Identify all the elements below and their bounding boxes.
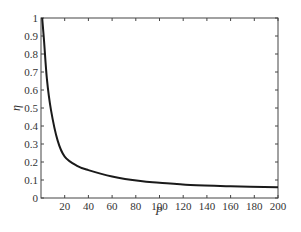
y-tick-label: 0.1 [24, 174, 38, 186]
plot-frame [41, 18, 278, 198]
x-tick-label: 80 [130, 200, 142, 212]
x-tick-label: 20 [59, 200, 71, 212]
efficiency-chart: 20406080100120140160180200 00.10.20.30.4… [0, 0, 301, 232]
x-tick-label: 200 [270, 200, 287, 212]
y-tick-label: 0.7 [24, 66, 38, 78]
x-tick-label: 180 [246, 200, 263, 212]
y-tick-label: 0.4 [24, 120, 38, 132]
y-tick-label: 0.8 [24, 48, 38, 60]
x-axis-label: P [154, 204, 163, 218]
y-tick-label: 1 [33, 12, 39, 24]
y-tick-label: 0 [33, 192, 39, 204]
y-axis-label: η [9, 105, 23, 111]
x-tick-label: 120 [175, 200, 192, 212]
x-tick-label: 60 [107, 200, 119, 212]
x-tick-label: 160 [222, 200, 239, 212]
y-tick-label: 0.9 [24, 30, 38, 42]
y-tick-label: 0.5 [24, 102, 38, 114]
y-tick-label: 0.2 [24, 156, 38, 168]
x-tick-label: 40 [83, 200, 95, 212]
x-tick-label: 140 [199, 200, 216, 212]
y-tick-label: 0.6 [24, 84, 38, 96]
y-tick-label: 0.3 [24, 138, 38, 150]
